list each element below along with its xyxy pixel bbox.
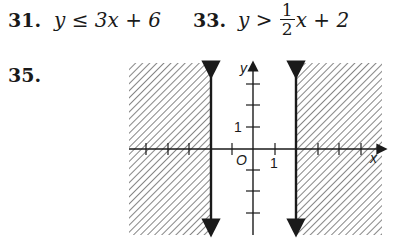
x-axis-label: x (369, 150, 378, 166)
y-tick-label-1: 1 (234, 119, 242, 135)
x-tick-label-1: 1 (270, 155, 278, 171)
y-axis-label: y (239, 60, 248, 76)
graph-35: y x O 1 1 (0, 0, 396, 247)
origin-label: O (236, 152, 247, 168)
